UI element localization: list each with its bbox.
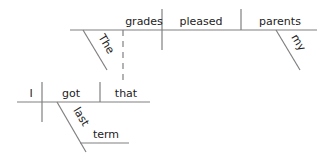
sentence-diagram: grades pleased parents The my I got that… [0,0,328,161]
word-parents: parents [259,15,301,28]
word-that: that [115,87,138,100]
word-last: last [70,105,92,129]
word-term: term [93,128,119,141]
word-got: got [62,87,81,100]
word-grades: grades [125,15,163,28]
word-my: my [288,32,308,54]
word-the: The [95,31,117,56]
word-pleased: pleased [179,15,222,28]
word-i: I [29,87,32,100]
